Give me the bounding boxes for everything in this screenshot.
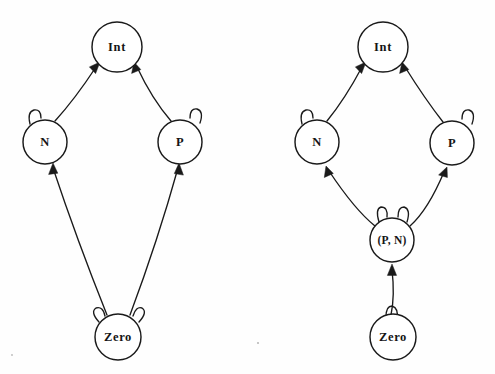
diagram-canvas: Int N P Zero [0,0,495,374]
scan-speck [11,354,13,356]
self-loop-p [190,109,201,123]
node-label-pn-right: (P, N) [378,234,407,247]
node-int-left[interactable]: Int [92,22,142,72]
node-p-left[interactable]: P [158,120,202,164]
node-n-left[interactable]: N [23,120,67,164]
node-int-right[interactable]: Int [358,22,408,72]
self-loop-zero-right [133,308,144,322]
edge-pn-to-n [324,166,375,226]
node-pn-right[interactable]: (P, N) [370,218,414,262]
node-label-n-left: N [40,135,50,149]
edge-pn-to-p [410,167,447,226]
edge-zero-to-p [130,163,183,315]
node-label-int-right: Int [374,40,392,54]
node-label-p-left: P [176,135,184,149]
node-label-zero-right: Zero [379,330,407,344]
node-label-n-right: N [312,135,322,149]
self-loop-p-right [462,110,473,124]
right-diagram: Int N P (P, N) Zero [295,22,474,360]
node-label-int-left: Int [108,40,126,54]
left-diagram: Int N P Zero [23,22,202,360]
edge-p-to-int [132,62,171,121]
edge-zero-to-n [49,163,107,315]
edge-n-to-int-right [327,62,366,121]
edge-p-to-int-right [400,62,443,122]
node-zero-right[interactable]: Zero [370,314,416,360]
figure-root: Int N P Zero [0,0,495,374]
scan-speck [257,342,259,344]
node-p-right[interactable]: P [430,121,474,165]
node-n-right[interactable]: N [295,120,339,164]
node-label-zero-left: Zero [104,330,132,344]
node-zero-left[interactable]: Zero [95,314,141,360]
edge-n-to-int [55,62,100,121]
node-label-p-right: P [448,136,456,150]
